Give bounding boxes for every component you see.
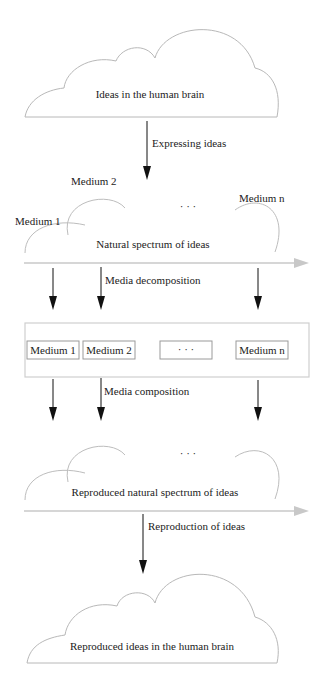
media-box: Medium 1 Medium 2 · · · Medium n [25, 323, 309, 377]
arrow-down-icon [139, 560, 147, 574]
reproduced-spectrum-label: Reproduced natural spectrum of ideas [72, 486, 239, 498]
axis-arrow-icon [294, 506, 309, 516]
arrow-down-icon [254, 407, 262, 421]
diagram-canvas: Ideas in the human brain Expressing idea… [0, 0, 326, 682]
axis-arrow-icon [294, 258, 309, 268]
arrow-down-icon [97, 296, 105, 310]
medium-2-arc [67, 199, 125, 235]
composition-arrows: Media composition [49, 378, 262, 421]
media-composition-label: Media composition [104, 385, 190, 397]
bottom-cloud-label: Reproduced ideas in the human brain [70, 640, 235, 652]
arrow-down-icon [49, 296, 57, 310]
bottom-cloud: Reproduced ideas in the human brain [27, 574, 278, 663]
arrow-down-icon [97, 407, 105, 421]
medium-n-label: Medium n [239, 192, 285, 204]
repro-ellipsis: · · · [180, 447, 197, 459]
medium-n-arc [235, 203, 279, 252]
medium-1-box-label: Medium 1 [30, 344, 76, 356]
arrow-down-icon [49, 407, 57, 421]
natural-spectrum-label: Natural spectrum of ideas [96, 238, 209, 250]
medium-n-box-label: Medium n [239, 344, 285, 356]
cloud-shape-top [25, 30, 278, 117]
media-decomposition-label: Media decomposition [105, 274, 201, 286]
reproduction-of-ideas-label: Reproduction of ideas [148, 520, 245, 532]
ellipsis-box-label: · · · [178, 343, 195, 355]
spectrum-ellipsis: · · · [180, 200, 197, 212]
medium-1-arc [25, 223, 85, 253]
arrow-down-icon [143, 166, 151, 180]
top-cloud-label: Ideas in the human brain [96, 88, 205, 100]
repro-arc-n [235, 451, 279, 499]
arrow-reproduction: Reproduction of ideas [139, 514, 245, 574]
medium-1-label: Medium 1 [15, 215, 61, 227]
medium-2-box-label: Medium 2 [86, 344, 132, 356]
arrow-down-icon [254, 296, 262, 310]
natural-spectrum: Medium 1 Medium 2 Medium n · · · Natural… [15, 175, 309, 268]
top-cloud: Ideas in the human brain [25, 30, 278, 117]
expressing-ideas-label: Expressing ideas [152, 137, 226, 149]
reproduced-spectrum: · · · Reproduced natural spectrum of ide… [24, 446, 309, 516]
medium-2-label: Medium 2 [71, 175, 117, 187]
repro-arc-2 [67, 446, 125, 482]
arrow-expressing-ideas: Expressing ideas [143, 121, 226, 180]
decomposition-arrows: Media decomposition [49, 267, 262, 310]
